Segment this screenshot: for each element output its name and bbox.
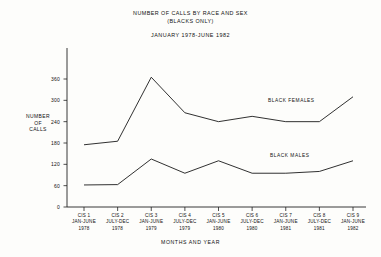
y-axis-tick-label: 360 (38, 76, 60, 82)
x-tick-year: 1982 (330, 226, 376, 232)
series-polylines (84, 77, 353, 185)
x-axis-tick-label: CIS 9JAN-JUNE1982 (330, 213, 376, 232)
series-line-black-males (84, 159, 353, 185)
y-axis-tick-label: 240 (38, 119, 60, 125)
x-axis-ticks (84, 207, 353, 211)
y-axis-ticks (64, 79, 68, 207)
y-axis-tick-label: 120 (38, 161, 60, 167)
y-axis-tick-label: 60 (38, 183, 60, 189)
y-axis-tick-label: 300 (38, 97, 60, 103)
series-line-black-females (84, 77, 353, 145)
y-axis-tick-label: 0 (38, 204, 60, 210)
axis-lines (67, 48, 366, 207)
chart-page: NUMBER OF CALLS BY RACE AND SEX (BLACKS … (0, 0, 381, 257)
y-axis-tick-label: 180 (38, 140, 60, 146)
